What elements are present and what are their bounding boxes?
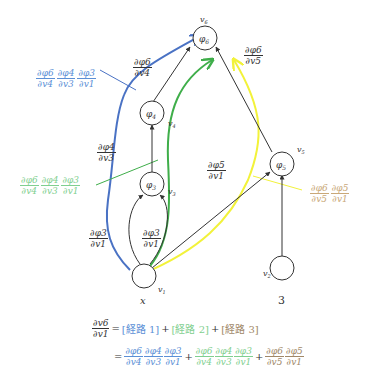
svg-text:v3: v3	[168, 187, 176, 197]
edge-label-phi6-v4: ∂φ6∂v4	[133, 57, 152, 78]
svg-text:v1: v1	[158, 285, 166, 295]
route-1-expansion: ∂φ6∂v4 ∂φ4∂v3 ∂φ3∂v1	[124, 346, 182, 367]
svg-text:x: x	[140, 295, 146, 306]
equation-line-1: ∂v6∂v1 = [経路 1] + [経路 2] + [経路 3]	[92, 318, 259, 339]
edge-label-phi4-v3: ∂φ4∂v3	[97, 142, 116, 163]
svg-text:v2: v2	[263, 269, 271, 279]
edge-label-phi6-v5: ∂φ6∂v5	[244, 45, 263, 66]
svg-text:3: 3	[278, 294, 285, 307]
edge-label-phi5-v1: ∂φ5∂v1	[207, 160, 226, 181]
route-1: [経路 1]	[122, 321, 159, 336]
path-1-label: ∂φ6∂v4 ∂φ4∂v3 ∂φ3∂v1	[36, 68, 96, 89]
node-v2	[270, 256, 294, 280]
svg-text:v6: v6	[200, 15, 209, 25]
route-3: [経路 3]	[221, 321, 258, 336]
route-2: [経路 2]	[172, 321, 209, 336]
edge-label-phi3-v1-left: ∂φ3∂v1	[89, 228, 108, 249]
svg-text:v4: v4	[168, 119, 176, 129]
equation-line-2: = ∂φ6∂v4 ∂φ4∂v3 ∂φ3∂v1 + ∂φ6∂v4 ∂φ4∂v3 ∂…	[114, 346, 304, 367]
path-2-label: ∂φ6∂v4 ∂φ4∂v3 ∂φ3∂v1	[20, 175, 80, 196]
node-v1	[132, 264, 156, 288]
path-3-label: ∂φ6∂v5 ∂φ5∂v1	[310, 183, 349, 204]
route-2-expansion: ∂φ6∂v4 ∂φ4∂v3 ∂φ3∂v1	[195, 346, 253, 367]
svg-text:v5: v5	[297, 145, 305, 155]
edge-label-phi3-v1-right: ∂φ3∂v1	[142, 228, 161, 249]
route-3-expansion: ∂φ6∂v5 ∂φ5∂v1	[265, 346, 303, 367]
